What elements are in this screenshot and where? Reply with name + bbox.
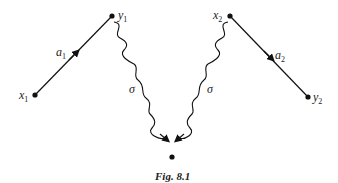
label-x1: x1 [18, 88, 28, 104]
arrow-icon [69, 52, 77, 60]
arrow-icon [264, 51, 272, 59]
label-y2: y2 [312, 90, 322, 106]
label-y1: y1 [117, 8, 127, 24]
figure-caption: Fig. 8.1 [154, 170, 190, 182]
label-a2: a2 [275, 48, 285, 64]
node-x2 [227, 13, 232, 18]
node-bottom [169, 154, 174, 159]
label-sigma-right: σ [207, 82, 214, 96]
edge-sigma-right [177, 22, 228, 140]
edge-a2 [230, 16, 308, 97]
edge-sigma-left [114, 22, 167, 140]
diagram-canvas: x1 y1 x2 y2 a1 a2 σ σ Fig. 8.1 [0, 0, 338, 183]
node-x1 [32, 92, 37, 97]
node-y2 [305, 94, 310, 99]
label-a1: a1 [56, 45, 66, 61]
label-sigma-left: σ [129, 82, 136, 96]
label-x2: x2 [212, 8, 222, 24]
node-y1 [109, 13, 114, 18]
edge-a1 [35, 16, 112, 95]
